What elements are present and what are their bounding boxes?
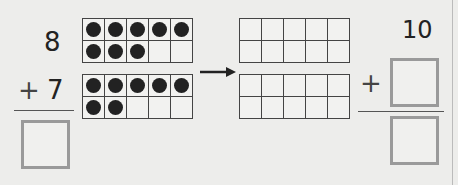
frame-cell — [127, 97, 149, 119]
addend-1: 8 — [44, 29, 61, 55]
frame-cell[interactable] — [328, 19, 350, 41]
frame-cell[interactable] — [262, 41, 284, 63]
counter-dot-icon — [130, 22, 145, 37]
frame-cell — [83, 19, 105, 41]
frame-cell — [149, 41, 171, 63]
frame-cell[interactable] — [328, 97, 350, 119]
counter-dot-icon — [86, 44, 101, 59]
sum-line-right — [358, 111, 444, 112]
counter-dot-icon — [108, 78, 123, 93]
frame-cell[interactable] — [306, 41, 328, 63]
ten-frame-bottom-left — [82, 74, 193, 119]
frame-cell — [83, 75, 105, 97]
frame-cell[interactable] — [284, 75, 306, 97]
frame-cell[interactable] — [240, 97, 262, 119]
frame-cell[interactable] — [240, 75, 262, 97]
frame-cell — [171, 75, 193, 97]
frame-cell — [83, 41, 105, 63]
frame-cell — [105, 19, 127, 41]
frame-cell — [105, 41, 127, 63]
ten-label: 10 — [402, 17, 433, 43]
frame-cell[interactable] — [306, 75, 328, 97]
arrow-icon — [200, 63, 236, 75]
counter-dot-icon — [86, 22, 101, 37]
frame-cell[interactable] — [328, 75, 350, 97]
frame-cell[interactable] — [306, 97, 328, 119]
frame-cell[interactable] — [284, 19, 306, 41]
counter-dot-icon — [86, 78, 101, 93]
frame-cell[interactable] — [240, 19, 262, 41]
frame-cell — [171, 19, 193, 41]
frame-cell — [171, 41, 193, 63]
counter-dot-icon — [108, 22, 123, 37]
counter-dot-icon — [130, 44, 145, 59]
frame-cell — [149, 97, 171, 119]
ten-frame-top-right[interactable] — [239, 18, 350, 63]
counter-dot-icon — [174, 78, 189, 93]
frame-cell[interactable] — [240, 41, 262, 63]
answer-box-right-addend[interactable] — [390, 58, 439, 107]
frame-cell[interactable] — [262, 97, 284, 119]
frame-cell — [127, 19, 149, 41]
answer-box-left[interactable] — [21, 120, 70, 169]
frame-cell[interactable] — [284, 41, 306, 63]
frame-cell[interactable] — [284, 97, 306, 119]
plus-sign-right: + — [360, 70, 382, 96]
counter-dot-icon — [108, 100, 123, 115]
frame-cell[interactable] — [262, 75, 284, 97]
counter-dot-icon — [152, 78, 167, 93]
frame-cell — [105, 97, 127, 119]
counter-dot-icon — [152, 22, 167, 37]
frame-cell — [149, 19, 171, 41]
frame-cell — [127, 41, 149, 63]
frame-cell — [105, 75, 127, 97]
frame-cell — [127, 75, 149, 97]
ten-frame-bottom-right[interactable] — [239, 74, 350, 119]
counter-dot-icon — [174, 22, 189, 37]
frame-cell — [83, 97, 105, 119]
sum-line-left — [14, 110, 74, 111]
frame-cell — [149, 75, 171, 97]
counter-dot-icon — [130, 78, 145, 93]
counter-dot-icon — [108, 44, 123, 59]
ten-frame-top-left — [82, 18, 193, 63]
frame-cell — [171, 97, 193, 119]
frame-cell[interactable] — [262, 19, 284, 41]
page-edge-line — [452, 0, 453, 185]
plus-sign-left: + — [18, 77, 40, 103]
frame-cell[interactable] — [328, 41, 350, 63]
answer-box-right-sum[interactable] — [390, 116, 439, 165]
counter-dot-icon — [86, 100, 101, 115]
addend-2: 7 — [47, 77, 64, 103]
frame-cell[interactable] — [306, 19, 328, 41]
